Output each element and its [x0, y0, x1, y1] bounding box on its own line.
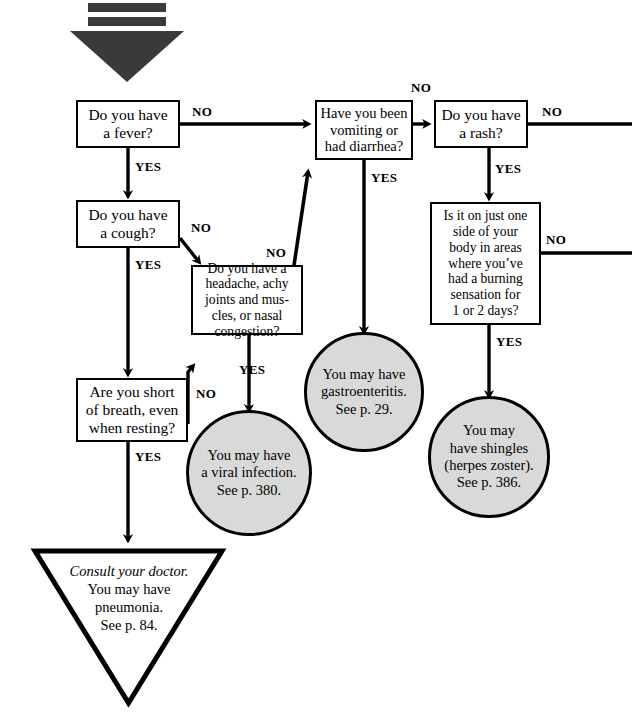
node-shingles-question-line4: where you’ve: [448, 256, 522, 271]
node-breath-line1: Are you short: [89, 383, 174, 400]
edge-label-cough-no: NO: [191, 220, 211, 236]
node-pneumonia-line4: See p. 84.: [100, 617, 157, 633]
node-breath-line2: of breath, even: [86, 401, 179, 418]
edge-label-vomiting-yes: YES: [371, 170, 397, 186]
node-fever[interactable]: Do you have a fever?: [76, 100, 180, 148]
node-vomiting-line2: vomiting or: [330, 122, 398, 138]
edge-label-vomiting-no: NO: [411, 80, 431, 96]
node-cough-line1: Do you have: [88, 206, 167, 223]
node-pneumonia-line1: Consult your doctor.: [70, 563, 189, 579]
node-headache-line4: cles, or nasal: [212, 308, 283, 323]
node-headache[interactable]: Do you have a headache, achy joints and …: [191, 265, 303, 335]
edge-label-breath-yes: YES: [135, 449, 161, 465]
node-headache-line3: joints and mus-: [205, 292, 289, 307]
node-gastro-line3: See p. 29.: [335, 401, 392, 417]
node-breath[interactable]: Are you short of breath, even when resti…: [76, 378, 188, 442]
node-shingles-line1: You may: [463, 422, 515, 438]
node-pneumonia-line2: You may have: [87, 581, 170, 597]
node-headache-line2: headache, achy: [205, 276, 288, 291]
node-viral-line3: See p. 380.: [217, 482, 281, 498]
edge-label-breath-no: NO: [196, 386, 216, 402]
edge-label-shingles-question-no: NO: [546, 232, 566, 248]
edge-label-cough-yes: YES: [135, 257, 161, 273]
node-rash-line2: a rash?: [459, 124, 502, 141]
edge-label-headache-yes: YES: [239, 362, 265, 378]
node-shingles-line2: have shingles: [450, 440, 529, 456]
node-shingles-question-line5: had a burning: [448, 271, 523, 286]
node-shingles-line3: (herpes zoster).: [444, 457, 533, 473]
node-shingles-line4: See p. 386.: [457, 474, 521, 490]
node-cough-line2: a cough?: [100, 224, 156, 241]
node-headache-line1: Do you have a: [208, 261, 287, 276]
node-rash[interactable]: Do you have a rash?: [434, 100, 528, 148]
node-gastroenteritis[interactable]: You may have gastroenteritis. See p. 29.: [304, 332, 424, 452]
node-fever-line2: a fever?: [103, 124, 152, 141]
node-fever-line1: Do you have: [88, 106, 167, 123]
node-gastro-line1: You may have: [322, 366, 405, 382]
node-viral-line1: You may have: [207, 447, 290, 463]
edge-label-rash-yes: YES: [495, 161, 521, 177]
edge-cough-no: [180, 238, 199, 262]
edge-label-fever-no: NO: [192, 104, 212, 120]
node-shingles-question-line6: sensation for: [451, 287, 521, 302]
edge-label-shingles-question-yes: YES: [496, 334, 522, 350]
node-viral-infection[interactable]: You may have a viral infection. See p. 3…: [186, 410, 312, 536]
node-viral-line2: a viral infection.: [201, 464, 296, 480]
node-headache-line5: congestion?: [215, 324, 280, 339]
node-shingles-question-line2: side of your: [453, 224, 518, 239]
edge-label-headache-no: NO: [266, 245, 286, 261]
edge-label-rash-no: NO: [542, 104, 562, 120]
flowchart-canvas: Do you have a fever? Do you have a cough…: [0, 0, 632, 722]
node-gastro-line2: gastroenteritis.: [321, 383, 407, 399]
node-shingles-question-line7: 1 or 2 days?: [452, 303, 518, 318]
node-vomiting[interactable]: Have you been vomiting or had diarrhea?: [315, 100, 413, 160]
start-down-arrow: [70, 3, 184, 82]
node-rash-line1: Do you have: [441, 106, 520, 123]
node-shingles-question-line1: Is it on just one: [444, 208, 528, 223]
node-shingles-question[interactable]: Is it on just one side of your body in a…: [430, 202, 541, 325]
edge-breath-no: [188, 366, 193, 424]
node-shingles-question-line3: body in areas: [449, 240, 521, 255]
node-vomiting-line1: Have you been: [321, 105, 408, 121]
node-pneumonia[interactable]: Consult your doctor. You may have pneumo…: [49, 562, 209, 635]
edge-label-fever-yes: YES: [135, 159, 161, 175]
node-shingles[interactable]: You may have shingles (herpes zoster). S…: [428, 396, 550, 518]
node-pneumonia-line3: pneumonia.: [95, 599, 163, 615]
node-vomiting-line3: had diarrhea?: [325, 138, 404, 154]
edge-headache-no: [293, 172, 308, 272]
node-cough[interactable]: Do you have a cough?: [76, 200, 180, 248]
node-breath-line3: when resting?: [89, 419, 176, 436]
